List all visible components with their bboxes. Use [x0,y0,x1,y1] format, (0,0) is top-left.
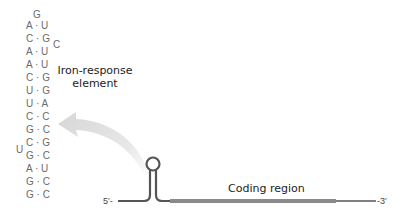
hairpin-loop [147,158,160,171]
ire-diagram: G A · U C · G A · U A · U C · G U · G U … [0,0,408,214]
five-prime-label: 5′- [103,196,113,206]
coding-region-bar [170,199,336,203]
coding-region-label: Coding region [228,182,318,195]
three-prime-label: -3′ [377,196,387,206]
mrna-graphic [0,0,408,214]
curved-arrow-icon [58,112,150,178]
